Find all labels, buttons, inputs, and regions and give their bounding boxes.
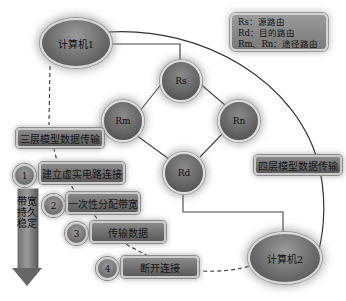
three-layer-label: 三层模型数据传输 — [20, 131, 100, 146]
legend-line-rs: Rs：源路由 — [238, 17, 320, 28]
router-rn-node[interactable]: Rn — [218, 100, 260, 142]
step-1-number: 1 — [13, 164, 36, 187]
step-3-number-text: 3 — [74, 229, 80, 239]
step-1-label: 建立虚实电路连接 — [42, 166, 122, 181]
router-rs-label: Rs — [175, 76, 186, 86]
legend-line-rd: Rd：目的路由 — [238, 28, 320, 39]
step-4-number-text: 4 — [105, 264, 111, 274]
step-4-number: 4 — [96, 257, 119, 280]
arrow-label: 带宽持久稳定 — [17, 196, 37, 229]
step-2-box: 一次性分配带宽 — [66, 192, 140, 214]
computer-2-node[interactable]: 计算机2 — [248, 232, 322, 284]
router-rd-label: Rd — [178, 168, 191, 178]
router-rn-label: Rn — [233, 116, 246, 126]
step-3-number: 3 — [65, 222, 88, 245]
four-layer-label-box: 四层模型数据传输 — [254, 155, 342, 175]
step-1-box: 建立虚实电路连接 — [39, 162, 125, 184]
step-4-box: 断开连接 — [121, 256, 199, 278]
router-rm-node[interactable]: Rm — [102, 100, 144, 142]
step-4-label: 断开连接 — [140, 260, 180, 275]
four-layer-label: 四层模型数据传输 — [258, 158, 338, 173]
computer-1-node[interactable]: 计算机1 — [40, 18, 112, 68]
step-1-number-text: 1 — [22, 171, 28, 181]
step-2-number: 2 — [42, 194, 65, 217]
legend-box: Rs：源路由 Rd：目的路由 Rm、Rn：途径路由 — [230, 13, 328, 51]
step-3-box: 传输数据 — [90, 221, 166, 243]
router-rd-node[interactable]: Rd — [163, 152, 205, 194]
router-rs-node[interactable]: Rs — [160, 60, 202, 102]
step-3-label: 传输数据 — [108, 225, 148, 240]
network-diagram: 计算机1 计算机2 Rs Rm Rn Rd Rs：源路由 Rd：目的路由 Rm、… — [0, 0, 346, 301]
step-2-number-text: 2 — [51, 201, 57, 211]
step-2-label: 一次性分配带宽 — [68, 196, 138, 211]
arrow-head — [12, 268, 42, 286]
legend-line-rm-rn: Rm、Rn：途径路由 — [238, 39, 320, 50]
down-arrow-icon: 带宽持久稳定 — [14, 188, 40, 288]
three-layer-label-box: 三层模型数据传输 — [16, 128, 104, 148]
router-rm-label: Rm — [115, 116, 130, 126]
computer-1-label: 计算机1 — [58, 36, 94, 51]
computer-2-label: 计算机2 — [267, 251, 303, 266]
